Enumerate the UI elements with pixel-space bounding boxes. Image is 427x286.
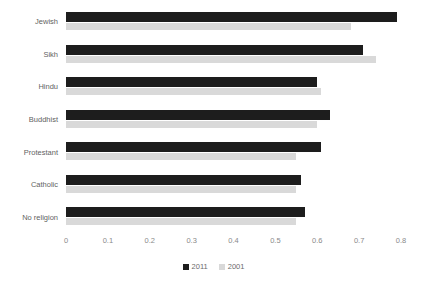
category-label: Catholic: [0, 180, 58, 189]
bar-chart: JewishSikhHinduBuddhistProtestantCatholi…: [0, 0, 427, 286]
legend-item-2001[interactable]: 2001: [219, 262, 245, 271]
x-axis-tick-label: 0: [64, 236, 68, 245]
bar-group: [66, 169, 401, 202]
bar-group: [66, 6, 401, 39]
legend-swatch-icon: [219, 264, 225, 270]
bar-2001: [66, 218, 296, 225]
bar-2001: [66, 56, 376, 63]
x-axis-tick-label: 0.8: [396, 236, 406, 245]
bar-group: [66, 201, 401, 234]
category-axis-labels: JewishSikhHinduBuddhistProtestantCatholi…: [0, 6, 62, 234]
bar-2001: [66, 186, 296, 193]
category-label: Hindu: [0, 82, 58, 91]
chart-legend: 20112001: [0, 262, 427, 271]
category-label: Buddhist: [0, 115, 58, 124]
x-axis-tick-label: 0.6: [312, 236, 322, 245]
plot-area: [66, 6, 401, 234]
bar-2011: [66, 12, 397, 22]
bar-group: [66, 71, 401, 104]
bar-2011: [66, 175, 301, 185]
legend-swatch-icon: [183, 264, 189, 270]
bar-2001: [66, 88, 321, 95]
x-axis-tick-label: 0.4: [228, 236, 238, 245]
bar-2011: [66, 207, 305, 217]
x-axis-tick-label: 0.3: [186, 236, 196, 245]
bar-group: [66, 39, 401, 72]
bar-group: [66, 104, 401, 137]
category-label: Sikh: [0, 50, 58, 59]
x-axis-tick-label: 0.5: [270, 236, 280, 245]
bar-2011: [66, 45, 363, 55]
legend-label: 2001: [228, 262, 245, 271]
bar-2001: [66, 23, 351, 30]
bar-2011: [66, 142, 321, 152]
x-axis-tick-label: 0.7: [354, 236, 364, 245]
bar-2011: [66, 77, 317, 87]
bar-2001: [66, 153, 296, 160]
value-axis: 00.10.20.30.40.50.60.70.8: [66, 236, 401, 250]
category-label: Jewish: [0, 17, 58, 26]
bar-2011: [66, 110, 330, 120]
bar-group: [66, 136, 401, 169]
legend-label: 2011: [192, 262, 208, 271]
category-label: No religion: [0, 213, 58, 222]
x-axis-tick-label: 0.2: [145, 236, 155, 245]
bar-2001: [66, 121, 317, 128]
category-label: Protestant: [0, 148, 58, 157]
x-axis-tick-label: 0.1: [103, 236, 113, 245]
legend-item-2011[interactable]: 2011: [183, 262, 208, 271]
